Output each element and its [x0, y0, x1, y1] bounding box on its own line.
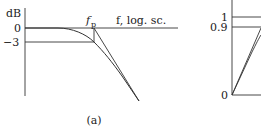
y-tick-0.9: 0.9	[210, 21, 228, 34]
y-tick-minus-3: −3	[3, 36, 19, 49]
y-unit-label: dB	[6, 7, 21, 20]
panel-a: dB 0 −3 f p f, log. sc. (a)	[3, 7, 178, 127]
magnitude-response-curve	[25, 28, 139, 101]
y-tick-0: 0	[221, 89, 228, 102]
step-response-curve	[232, 35, 261, 95]
pole-frequency-subscript: p	[91, 20, 96, 29]
x-axis-label: f, log. sc.	[116, 14, 166, 27]
panel-b: 1 0.9 0	[210, 0, 261, 102]
asymptote-line	[94, 28, 139, 101]
y-tick-0: 0	[14, 22, 21, 35]
panel-a-caption: (a)	[86, 114, 101, 127]
figure-canvas: dB 0 −3 f p f, log. sc. (a) 1 0.9 0	[0, 0, 261, 131]
